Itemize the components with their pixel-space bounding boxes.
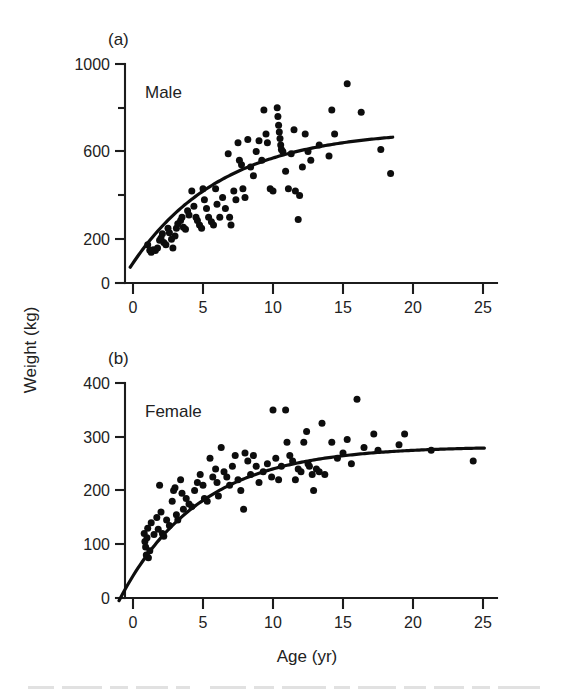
data-point <box>218 444 225 451</box>
data-point <box>264 460 271 467</box>
data-point <box>348 460 355 467</box>
data-point <box>284 439 291 446</box>
data-point <box>201 196 208 203</box>
panel-b-ytick-400: 400 <box>83 375 110 392</box>
data-point <box>253 463 260 470</box>
panel-b-xtick-5: 5 <box>199 614 208 631</box>
panel-a-xtick-25: 25 <box>474 299 492 316</box>
data-point <box>212 466 219 473</box>
data-point <box>296 192 303 199</box>
data-point <box>144 534 151 541</box>
data-point <box>200 482 207 489</box>
data-point <box>197 471 204 478</box>
data-point <box>302 131 309 138</box>
growth-curve-figure: Weight (kg) (a) Male 0 200 600 1000 <box>0 0 574 693</box>
panel-a-ytick-200: 200 <box>83 231 110 248</box>
y-axis-title: Weight (kg) <box>21 307 40 394</box>
data-point <box>222 205 229 212</box>
data-point <box>270 406 277 413</box>
data-point <box>169 498 176 505</box>
data-point <box>242 449 249 456</box>
data-point <box>169 244 176 251</box>
data-point <box>207 455 214 462</box>
data-point <box>285 185 292 192</box>
data-point <box>263 131 270 138</box>
data-point <box>190 203 197 210</box>
data-point <box>214 201 221 208</box>
data-point <box>256 479 263 486</box>
panel-b-series-label: Female <box>145 402 202 421</box>
data-point <box>256 137 263 144</box>
data-point <box>370 431 377 438</box>
data-point <box>216 214 223 221</box>
data-point <box>239 185 246 192</box>
data-point <box>310 487 317 494</box>
data-point <box>291 126 298 133</box>
data-point <box>191 487 198 494</box>
panel-a-ytick-1000: 1000 <box>74 56 110 73</box>
data-point <box>172 484 179 491</box>
data-point <box>268 474 275 481</box>
data-point <box>470 457 477 464</box>
panel-a-xtick-15: 15 <box>334 299 352 316</box>
data-point <box>172 232 179 239</box>
data-point <box>159 230 166 237</box>
data-point <box>387 170 394 177</box>
data-point <box>300 439 307 446</box>
data-point <box>401 431 408 438</box>
data-point <box>244 457 251 464</box>
panel-a-series-label: Male <box>145 83 182 102</box>
data-point <box>250 172 257 179</box>
data-point <box>264 139 271 146</box>
panel-a-xtick-20: 20 <box>404 299 422 316</box>
panel-b-xtick-15: 15 <box>334 614 352 631</box>
data-point <box>156 482 163 489</box>
panel-a-ytick-0: 0 <box>101 275 110 292</box>
data-point <box>344 436 351 443</box>
data-point <box>154 244 161 251</box>
data-point <box>232 452 239 459</box>
data-point <box>188 188 195 195</box>
data-point <box>244 136 251 143</box>
panel-b-xtick-20: 20 <box>404 614 422 631</box>
data-point <box>321 471 328 478</box>
data-point <box>162 241 169 248</box>
data-point <box>228 221 235 228</box>
data-point <box>328 439 335 446</box>
data-point <box>177 476 184 483</box>
data-point <box>282 406 289 413</box>
data-point <box>326 152 333 159</box>
data-point <box>182 226 189 233</box>
data-point <box>186 212 193 219</box>
panel-b-ytick-100: 100 <box>83 536 110 553</box>
data-point <box>198 225 205 232</box>
data-point <box>361 444 368 451</box>
data-point <box>276 128 283 135</box>
data-point <box>274 113 281 120</box>
data-point <box>203 205 210 212</box>
data-point <box>272 455 279 462</box>
data-point <box>260 106 267 113</box>
data-point <box>179 214 186 221</box>
data-point <box>354 396 361 403</box>
data-point <box>319 420 326 427</box>
data-point <box>230 188 237 195</box>
data-point <box>253 148 260 155</box>
panel-b-label: (b) <box>108 349 129 368</box>
panel-b-xtick-0: 0 <box>129 614 138 631</box>
data-point <box>282 168 289 175</box>
data-point <box>344 80 351 87</box>
data-point <box>270 188 277 195</box>
data-point <box>292 476 299 483</box>
data-point <box>242 194 249 201</box>
data-point <box>232 196 239 203</box>
data-point <box>158 509 165 516</box>
data-point <box>148 519 155 526</box>
panel-a-ytick-600: 600 <box>83 143 110 160</box>
data-point <box>214 479 221 486</box>
data-point <box>377 146 384 153</box>
data-point <box>331 131 338 138</box>
data-point <box>303 428 310 435</box>
panel-b-xtick-25: 25 <box>474 614 492 631</box>
data-point <box>226 214 233 221</box>
